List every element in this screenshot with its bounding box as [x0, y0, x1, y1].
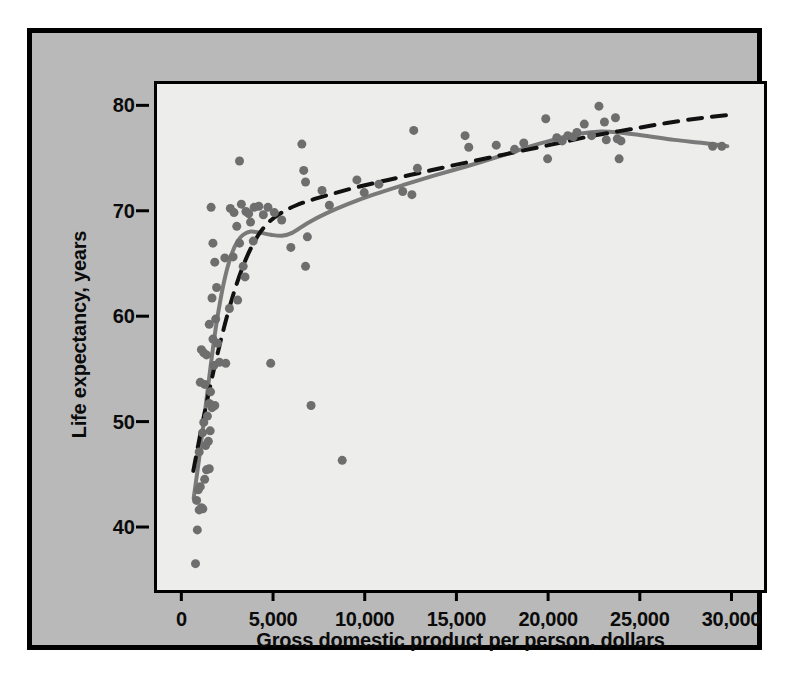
x-tick-label: 15,000	[427, 608, 486, 631]
data-point	[301, 262, 310, 271]
data-point	[286, 243, 295, 252]
data-point	[220, 253, 229, 262]
data-point	[193, 525, 202, 534]
y-tick-label: 50	[87, 410, 135, 433]
data-point	[594, 102, 603, 111]
data-point	[374, 180, 383, 189]
x-axis-title: Gross domestic product per person, dolla…	[154, 629, 767, 652]
data-point	[303, 232, 312, 241]
data-point	[212, 283, 221, 292]
data-point	[203, 412, 212, 421]
data-point	[297, 140, 306, 149]
data-point	[492, 141, 501, 150]
data-point	[543, 154, 552, 163]
data-point	[407, 190, 416, 199]
data-point	[205, 464, 214, 473]
data-point	[266, 359, 275, 368]
data-point	[510, 145, 519, 154]
data-point	[307, 401, 316, 410]
x-tick-label: 30,000	[702, 608, 761, 631]
data-point	[572, 128, 581, 137]
x-tick-label: 5,000	[249, 608, 298, 631]
data-point	[235, 239, 244, 248]
data-point	[232, 222, 241, 231]
data-point	[409, 126, 418, 135]
scatter-plot-svg	[157, 84, 764, 590]
data-point	[198, 428, 207, 437]
data-point	[318, 186, 327, 195]
data-point	[235, 156, 244, 165]
data-point	[602, 135, 611, 144]
data-point	[615, 154, 624, 163]
data-point	[413, 164, 422, 173]
data-point	[611, 113, 620, 122]
data-point	[239, 262, 248, 271]
data-point	[246, 218, 255, 227]
y-tick-label: 70	[87, 199, 135, 222]
y-tick-label: 80	[87, 94, 135, 117]
data-point	[210, 258, 219, 267]
data-point	[301, 178, 310, 187]
data-point	[360, 188, 369, 197]
data-point	[587, 131, 596, 140]
data-point	[541, 114, 550, 123]
data-point	[241, 272, 250, 281]
x-tick-label: 10,000	[335, 608, 394, 631]
data-point	[200, 380, 209, 389]
smooth-fit	[194, 131, 728, 498]
data-point	[398, 187, 407, 196]
x-tick-label: 25,000	[610, 608, 669, 631]
data-point	[299, 166, 308, 175]
data-point	[519, 139, 528, 148]
data-point	[208, 239, 217, 248]
data-point	[221, 359, 230, 368]
data-point	[204, 437, 213, 446]
y-axis-title: Life expectancy, years	[68, 105, 91, 565]
data-point	[717, 142, 726, 151]
plot-area	[154, 81, 767, 593]
data-point	[206, 426, 215, 435]
x-tick-label: 20,000	[518, 608, 577, 631]
y-tick-label: 40	[87, 516, 135, 539]
data-point	[352, 175, 361, 184]
data-point	[616, 136, 625, 145]
data-point	[580, 120, 589, 129]
data-point	[230, 208, 239, 217]
data-point	[338, 456, 347, 465]
data-point	[200, 475, 209, 484]
data-point	[600, 117, 609, 126]
y-tick-label: 60	[87, 305, 135, 328]
data-point	[191, 559, 200, 568]
smooth-fit-line	[194, 131, 728, 498]
data-point	[211, 315, 220, 324]
data-point	[233, 296, 242, 305]
x-tick-label: 0	[176, 608, 187, 631]
data-point	[208, 294, 217, 303]
data-point	[325, 201, 334, 210]
data-point	[207, 203, 216, 212]
data-point	[270, 208, 279, 217]
data-point	[202, 350, 211, 359]
data-point	[205, 399, 214, 408]
data-point	[198, 504, 207, 513]
figure-root: 4050607080 05,00010,00015,00020,00025,00…	[0, 0, 787, 682]
data-point	[192, 496, 201, 505]
data-point	[225, 304, 234, 313]
data-point	[464, 143, 473, 152]
data-point	[249, 237, 258, 246]
data-point	[206, 387, 215, 396]
data-point	[461, 131, 470, 140]
figure-panel: 4050607080 05,00010,00015,00020,00025,00…	[27, 28, 762, 650]
data-point	[195, 447, 204, 456]
data-point	[229, 252, 238, 261]
data-point	[208, 335, 217, 344]
data-point-group	[191, 102, 726, 569]
data-point	[708, 142, 717, 151]
data-point	[254, 202, 263, 211]
data-point	[277, 215, 286, 224]
